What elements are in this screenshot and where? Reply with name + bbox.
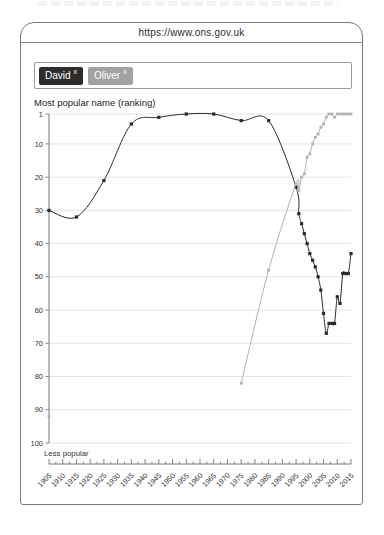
url-text: https://www.ons.gov.uk [139,27,245,38]
url-bar[interactable]: https://www.ons.gov.uk [21,23,362,43]
cropped-text-artifact [38,1,338,6]
svg-text:1: 1 [39,110,43,119]
chip-oliver-label: Oliver [94,69,120,82]
svg-text:30: 30 [35,206,43,215]
svg-text:40: 40 [35,239,43,248]
svg-text:100: 100 [30,439,43,448]
svg-text:Less popular: Less popular [44,449,89,458]
screenshot-page: https://www.ons.gov.uk David x Oliver x … [0,0,384,535]
svg-text:60: 60 [35,306,43,315]
svg-text:10: 10 [35,140,43,149]
chip-david[interactable]: David x [39,67,83,85]
name-search-input[interactable]: David x Oliver x [34,62,352,89]
browser-window: https://www.ons.gov.uk David x Oliver x … [20,22,363,505]
svg-text:80: 80 [35,372,43,381]
svg-text:20: 20 [35,173,43,182]
chip-david-remove-icon[interactable]: x [74,68,78,75]
svg-text:2015: 2015 [338,471,356,489]
svg-text:70: 70 [35,339,43,348]
chip-oliver[interactable]: Oliver x [88,67,133,85]
svg-text:50: 50 [35,272,43,281]
chip-oliver-remove-icon[interactable]: x [123,68,127,75]
svg-text:90: 90 [35,405,43,414]
name-ranking-chart[interactable]: 1102030405060708090100Less popular190519… [21,107,364,505]
chip-david-label: David [45,69,71,82]
